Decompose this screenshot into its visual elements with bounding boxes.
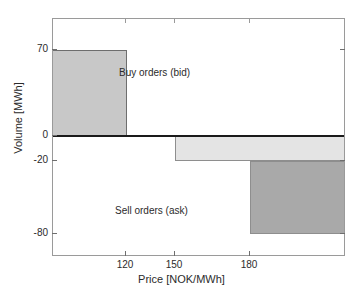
y-tick-label-minus-80: -80: [20, 227, 48, 238]
plot-area: Buy orders (bid) Sell orders (ask): [52, 18, 345, 256]
annotation-buy-orders: Buy orders (bid): [119, 67, 190, 78]
y-tick-mark-right-minus-80: [340, 233, 345, 234]
x-tick-mark-150: [174, 251, 175, 256]
x-tick-label-120: 120: [105, 259, 145, 270]
x-tick-mark-top-150: [174, 18, 175, 23]
y-tick-mark-70: [52, 49, 57, 50]
y-axis-title: Volume [MWh]: [12, 58, 24, 178]
annotation-sell-orders: Sell orders (ask): [115, 205, 188, 216]
bar-buy-orders-bid: [52, 50, 127, 136]
y-tick-mark-minus-80: [52, 233, 57, 234]
y-tick-label-minus-20: -20: [20, 154, 48, 165]
x-tick-mark-180: [249, 251, 250, 256]
chart-figure: Buy orders (bid) Sell orders (ask) 70 0 …: [0, 0, 363, 297]
y-tick-mark-0: [52, 135, 57, 136]
bar-sell-orders-ask-step-1: [175, 136, 345, 161]
y-tick-mark-minus-20: [52, 160, 57, 161]
y-tick-label-0: 0: [24, 129, 48, 140]
x-axis-title: Price [NOK/MWh]: [0, 273, 363, 285]
y-tick-mark-right-minus-20: [340, 160, 345, 161]
y-tick-label-70: 70: [24, 43, 48, 54]
bar-sell-orders-ask-step-2: [250, 161, 345, 234]
zero-baseline: [53, 135, 345, 137]
x-tick-mark-top-180: [249, 18, 250, 23]
x-tick-mark-120: [125, 251, 126, 256]
x-tick-label-150: 150: [154, 259, 194, 270]
x-tick-label-180: 180: [229, 259, 269, 270]
x-tick-mark-top-120: [125, 18, 126, 23]
y-tick-mark-right-70: [340, 49, 345, 50]
